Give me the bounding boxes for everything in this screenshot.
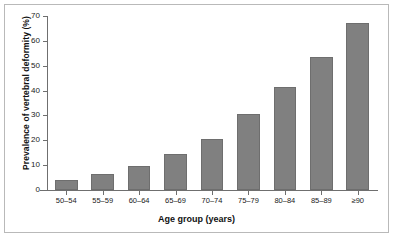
y-tick-mark [43,41,48,42]
x-tick-label: 60–64 [121,196,157,205]
y-tick-mark [43,165,48,166]
bar [128,166,151,190]
x-tick-mark [248,191,249,195]
x-tick-label: 50–54 [48,196,84,205]
y-tick-mark [43,91,48,92]
x-axis-line [40,190,378,191]
x-tick-label: 65–69 [157,196,193,205]
x-tick-mark [358,191,359,195]
x-tick-label: 75–79 [230,196,266,205]
figure-container: 010203040506070 50–5455–5960–6465–6970–7… [0,0,393,248]
x-tick-label: ≥90 [340,196,376,205]
bar [346,23,369,190]
x-tick-label: 85–89 [303,196,339,205]
y-tick-mark [43,115,48,116]
y-tick-label-wrap: 0 [18,186,40,194]
bar [164,154,187,190]
y-axis-title: Prevalence of vertebral deformity (%) [21,3,31,183]
y-tick-mark [43,140,48,141]
x-tick-mark [212,191,213,195]
x-tick-mark [103,191,104,195]
bar [201,139,224,190]
y-tick-label: 0 [20,186,40,194]
bar [274,87,297,190]
x-tick-mark [139,191,140,195]
y-tick-mark [43,16,48,17]
x-tick-mark [321,191,322,195]
bar [310,57,333,190]
x-tick-label: 70–74 [194,196,230,205]
bar [237,114,260,190]
x-tick-label: 80–84 [267,196,303,205]
y-tick-mark [43,66,48,67]
x-axis-title: Age group (years) [0,214,393,224]
y-tick-mark [43,190,48,191]
bar [91,174,114,190]
x-tick-mark [285,191,286,195]
x-tick-mark [176,191,177,195]
bar [55,180,78,190]
x-tick-label: 55–59 [84,196,120,205]
x-tick-mark [66,191,67,195]
